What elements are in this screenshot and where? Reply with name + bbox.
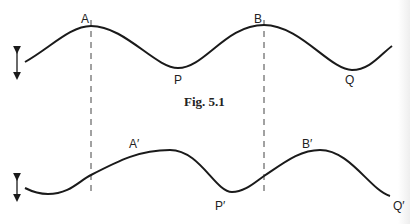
label-q: Q [345,73,354,87]
bottom-wave [25,150,390,196]
label-a-prime: A′ [129,137,140,151]
label-p-prime: P′ [215,199,226,213]
label-p: P [174,73,182,87]
wave-diagram: A B P Q Fig. 5.1 A′ B′ P′ Q′ [0,0,410,224]
figure-caption: Fig. 5.1 [184,94,225,109]
label-b-prime: B′ [302,137,313,151]
label-b: B [254,12,262,26]
label-q-prime: Q′ [393,199,405,213]
label-a: A [81,12,89,26]
top-wave [25,25,392,70]
